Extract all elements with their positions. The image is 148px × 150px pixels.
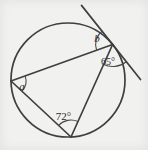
angle-label-65: 65°	[101, 56, 115, 67]
angle-label-b: b	[94, 32, 100, 44]
geometry-figure: a b 65° 72°	[0, 0, 148, 150]
angle-label-a: a	[19, 80, 25, 92]
chord-a-to-tangent-point	[11, 45, 113, 82]
tangent-line	[82, 5, 141, 79]
circle-tangent-diagram: a b 65° 72°	[0, 0, 148, 150]
angle-label-72: 72°	[56, 110, 71, 122]
